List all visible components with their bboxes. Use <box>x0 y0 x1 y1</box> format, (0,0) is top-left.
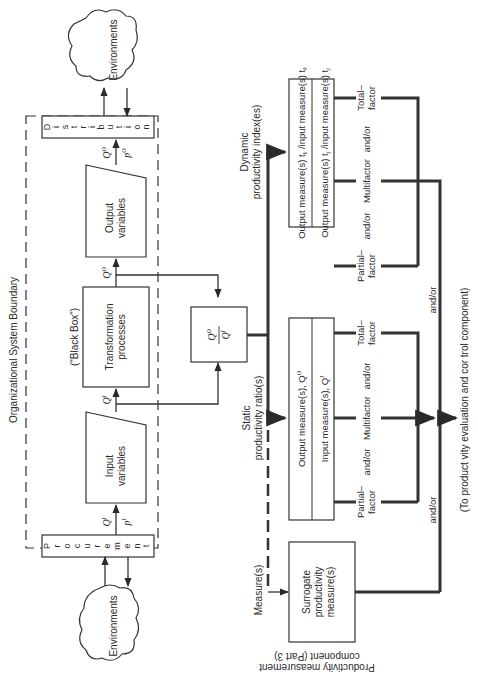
dynamic-label-line1: Dynamic <box>239 133 250 172</box>
stat-partial-label-2: factor <box>366 490 377 514</box>
flow-label-p-in-procurement: pI <box>121 518 132 527</box>
transformation-line1: Transformation <box>104 304 115 371</box>
diagram-canvas: Organizational System Boundary Environme… <box>0 0 478 678</box>
flow-label-p-out-distribution: pO <box>121 148 132 159</box>
output-variables-line1: Output <box>104 203 115 233</box>
destination-label: (To product vity evaluation and cor trol… <box>459 288 470 513</box>
black-box-label: ("Black Box") <box>69 308 80 366</box>
dyn-partial-label-1: Partial– <box>355 249 366 282</box>
stat-multifactor-label: Multifactor <box>361 396 372 440</box>
flow-label-q-in-transform: QI <box>101 394 112 404</box>
svg-text:pI: pI <box>121 518 132 527</box>
svg-text:P: P <box>42 543 52 549</box>
svg-text:c: c <box>72 543 82 548</box>
surrogate-line3: measure(s) <box>325 567 336 618</box>
stat-total-label-1: Total– <box>355 320 366 346</box>
input-variables-line1: Input <box>104 455 115 477</box>
surrogate-line1: Surrogate <box>301 570 312 614</box>
stat-andor-1: and/or <box>361 363 372 390</box>
svg-text:e: e <box>102 543 112 548</box>
input-variables-line2: variables <box>116 446 127 486</box>
boundary-label: Organizational System Boundary <box>8 277 19 423</box>
svg-text:r: r <box>52 545 62 548</box>
static-row-1: Output measure(s), QO <box>296 370 307 467</box>
stat-total-label-2: factor <box>366 321 377 345</box>
environments-cloud-top <box>68 10 137 81</box>
svg-text:m: m <box>112 542 122 550</box>
flow-label-q-out-distribution: QO <box>101 147 112 159</box>
static-label-line2: productivity ratio(s) <box>253 376 264 460</box>
svg-text:pO: pO <box>121 148 132 159</box>
dyn-total-label-1: Total– <box>355 85 366 111</box>
svg-text:QI: QI <box>101 516 112 526</box>
svg-text:u: u <box>82 543 92 548</box>
measures-label: Measure(s) <box>253 565 264 616</box>
stat-partial-label-1: Partial– <box>355 485 366 518</box>
svg-text:n: n <box>141 124 151 129</box>
transformation-line2: processes <box>116 314 127 360</box>
output-variables-line2: variables <box>116 198 127 238</box>
dyn-total-label-2: factor <box>366 86 377 110</box>
svg-text:Output measure(s), QO: Output measure(s), QO <box>296 370 307 467</box>
dyn-partial-label-2: factor <box>366 254 377 278</box>
svg-text:e: e <box>122 543 132 548</box>
productivity-measurement-diagram: Organizational System Boundary Environme… <box>0 0 478 678</box>
svg-text:QO: QO <box>101 267 112 279</box>
dyn-multifactor-label: Multifactor <box>361 159 372 203</box>
component-label-line2: component (Part 3) <box>274 651 360 662</box>
dynamic-factor-connectors <box>334 98 440 418</box>
environments-top-label: Environments <box>108 19 119 80</box>
dyn-andor-2: and/or <box>361 213 372 240</box>
svg-text:QI: QI <box>101 394 112 404</box>
dynamic-label-line2: productivity index(es) <box>251 105 262 199</box>
environments-bottom-label: Environments <box>108 595 119 656</box>
svg-text:o: o <box>62 543 72 548</box>
stat-andor-2: and/or <box>361 449 372 476</box>
surrogate-line2: productivity <box>313 567 324 618</box>
static-factor-connectors <box>334 333 418 502</box>
static-row-2: Input measure(s), QI <box>319 375 330 462</box>
flow-label-q-out-transform: QO <box>101 267 112 279</box>
flow-label-q-in-procurement: QI <box>101 516 112 526</box>
svg-text:r: r <box>92 545 102 548</box>
svg-text:QO: QO <box>101 147 112 159</box>
component-label-line1: Productivity measurement <box>259 662 375 673</box>
svg-text:Input measure(s), QI: Input measure(s), QI <box>319 375 330 462</box>
static-label-line1: Static <box>241 405 252 430</box>
bus-andor-lower: and/or <box>427 497 438 524</box>
bus-andor-upper: and/or <box>427 287 438 314</box>
dyn-andor-1: and/or <box>361 126 372 153</box>
